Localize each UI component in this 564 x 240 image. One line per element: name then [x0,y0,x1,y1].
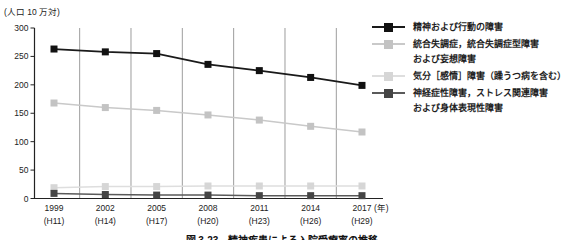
y-tick-label: 0 [24,194,29,204]
series-marker-0 [307,74,314,81]
x-tick-era-label: (H23) [249,216,270,226]
x-tick-year-label: 2005 [147,203,166,213]
y-tick-label: 300 [14,23,28,33]
series-marker-1 [358,129,365,136]
series-marker-3 [204,192,211,199]
y-tick-label: 100 [14,137,28,147]
series-marker-2 [307,182,314,189]
series-marker-0 [204,61,211,68]
series-marker-1 [256,117,263,124]
series-marker-1 [153,107,160,114]
chart-legend: 精神および行動の障害統合失調症，統合失調症型障害 および妄想障害気分［感情］障害… [372,20,564,116]
series-marker-3 [51,190,58,197]
x-tick-era-label: (H20) [197,216,218,226]
x-tick-year-label: 2008 [199,203,218,213]
y-tick-label: 150 [14,108,28,118]
legend-swatch-icon [372,37,405,51]
x-tick-year-label: 2002 [96,203,115,213]
legend-item-0: 精神および行動の障害 [372,20,564,35]
series-marker-2 [102,183,109,190]
y-tick-label: 250 [14,51,28,61]
figure: (人口 10 万対) 0501001502002503001999(H11)20… [0,0,564,240]
series-marker-2 [204,182,211,189]
series-marker-3 [256,192,263,199]
legend-label: 統合失調症，統合失調症型障害 および妄想障害 [413,37,539,67]
x-tick-year-label: 1999 [45,203,64,213]
series-marker-0 [256,67,263,74]
legend-swatch-icon [372,69,405,83]
legend-label: 気分［感情］障害（躁うつ病を含む） [413,69,564,84]
x-tick-era-label: (H17) [146,216,167,226]
series-marker-2 [256,182,263,189]
y-tick-label: 50 [19,165,29,175]
x-axis-unit-label: (年) [374,203,389,213]
legend-label: 精神および行動の障害 [413,20,503,35]
series-marker-3 [102,191,109,198]
y-tick-label: 200 [14,80,28,90]
legend-swatch-icon [372,86,405,100]
legend-item-2: 気分［感情］障害（躁うつ病を含む） [372,69,564,84]
series-marker-2 [358,182,365,189]
legend-item-1: 統合失調症，統合失調症型障害 および妄想障害 [372,37,564,67]
series-marker-0 [102,48,109,55]
x-tick-era-label: (H26) [300,216,321,226]
series-marker-0 [358,82,365,89]
figure-caption: 図 3-23 精神疾患による入院受療率の推移 [0,232,564,240]
legend-item-3: 神経症性障害，ストレス関連障害 および身体表現性障害 [372,86,564,116]
series-marker-0 [51,46,58,53]
legend-label: 神経症性障害，ストレス関連障害 および身体表現性障害 [413,86,548,116]
series-marker-1 [51,100,58,107]
series-marker-1 [204,111,211,118]
x-tick-year-label: 2011 [250,203,269,213]
series-marker-1 [307,123,314,130]
x-tick-year-label: 2017 [353,203,372,213]
x-tick-year-label: 2014 [301,203,320,213]
legend-swatch-icon [372,20,405,34]
x-tick-era-label: (H29) [351,216,372,226]
series-marker-1 [102,104,109,111]
series-marker-3 [358,192,365,199]
series-marker-3 [307,192,314,199]
x-tick-era-label: (H11) [44,216,65,226]
series-marker-2 [153,183,160,190]
series-marker-3 [153,192,160,199]
series-marker-0 [153,50,160,57]
x-tick-era-label: (H14) [95,216,116,226]
